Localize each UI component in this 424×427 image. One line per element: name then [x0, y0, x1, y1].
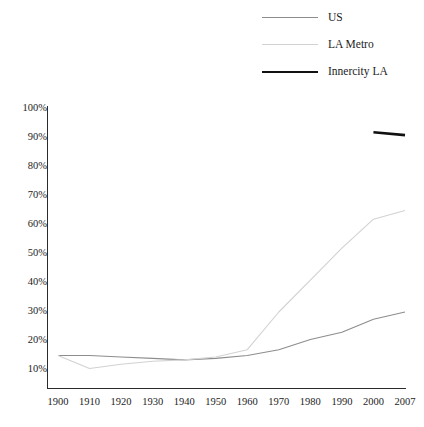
series-lines	[0, 0, 424, 427]
series-line-innercity-la	[373, 132, 405, 135]
line-chart: US LA Metro Innercity LA 100%90%80%70%60…	[0, 0, 424, 427]
plot-area: 100%90%80%70%60%50%40%30%20%10% 19001910…	[0, 0, 424, 427]
series-line-la-metro	[58, 211, 405, 369]
series-line-us	[58, 312, 405, 360]
